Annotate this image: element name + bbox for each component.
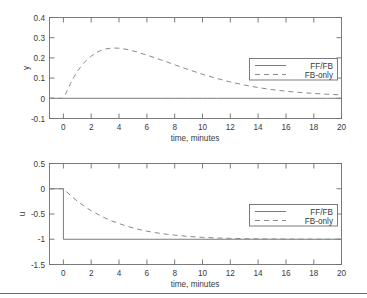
bottom-ytick-label-1: 0 (40, 185, 45, 194)
bottom-legend[interactable]: FF/FB FB-only (250, 205, 338, 227)
bottom-xaxis-title: time, minutes (171, 280, 220, 289)
top-legend-label-ff-fb: FF/FB (310, 62, 333, 71)
top-ytick-label-0: 0.4 (34, 14, 46, 23)
bottom-xtick-label-2: 4 (117, 269, 122, 278)
top-legend-label-fb-only: FB-only (305, 71, 334, 80)
panel-control-effort: 0.5 0 -0.5 -1 -1.5 0 2 4 6 8 10 12 14 16… (18, 160, 346, 289)
bottom-xtick-label-3: 6 (145, 269, 150, 278)
top-xtick-label-4: 8 (172, 123, 177, 132)
top-xtick-label-2: 4 (117, 123, 122, 132)
bottom-xtick-label-9: 18 (309, 269, 319, 278)
bottom-xtick-label-4: 8 (172, 269, 177, 278)
bottom-xtick-label-6: 12 (226, 269, 236, 278)
bottom-ytick-label-3: -1 (38, 235, 46, 244)
bottom-xtick-label-5: 10 (198, 269, 208, 278)
panel-output-response: 0.4 0.3 0.2 0.1 0 -0.1 0 2 4 6 8 10 12 1… (22, 14, 346, 143)
top-ytick-label-2: 0.2 (34, 54, 46, 63)
top-xtick-label-7: 14 (254, 123, 264, 132)
top-xtick-label-0: 0 (61, 123, 66, 132)
bottom-xtick-label-8: 16 (281, 269, 291, 278)
top-ytick-label-5: -0.1 (31, 115, 46, 124)
bottom-legend-label-fb-only: FB-only (305, 217, 334, 226)
chart-figure: 0.4 0.3 0.2 0.1 0 -0.1 0 2 4 6 8 10 12 1… (0, 0, 367, 298)
top-xtick-label-10: 20 (337, 123, 347, 132)
bottom-legend-label-ff-fb: FF/FB (310, 208, 333, 217)
bottom-xtick-label-10: 20 (337, 269, 347, 278)
top-xtick-label-8: 16 (281, 123, 291, 132)
bottom-ytick-label-4: -1.5 (31, 261, 46, 270)
top-yaxis-title: y (22, 65, 31, 70)
top-xtick-label-5: 10 (198, 123, 208, 132)
top-ytick-label-4: 0 (40, 95, 45, 104)
top-xaxis-title: time, minutes (171, 134, 220, 143)
top-xtick-label-6: 12 (226, 123, 236, 132)
top-xtick-label-1: 2 (89, 123, 94, 132)
bottom-yaxis-title: u (18, 211, 27, 216)
top-xtick-label-9: 18 (309, 123, 319, 132)
bottom-xtick-label-1: 2 (89, 269, 94, 278)
bottom-xtick-label-7: 14 (254, 269, 264, 278)
top-ytick-label-3: 0.1 (34, 74, 46, 83)
top-legend[interactable]: FF/FB FB-only (250, 59, 338, 81)
bottom-ytick-label-0: 0.5 (34, 160, 46, 169)
bottom-xtick-label-0: 0 (61, 269, 66, 278)
top-ytick-label-1: 0.3 (34, 34, 46, 43)
bottom-ytick-label-2: -0.5 (31, 210, 46, 219)
figure-container: 0.4 0.3 0.2 0.1 0 -0.1 0 2 4 6 8 10 12 1… (0, 0, 367, 298)
top-xtick-label-3: 6 (145, 123, 150, 132)
